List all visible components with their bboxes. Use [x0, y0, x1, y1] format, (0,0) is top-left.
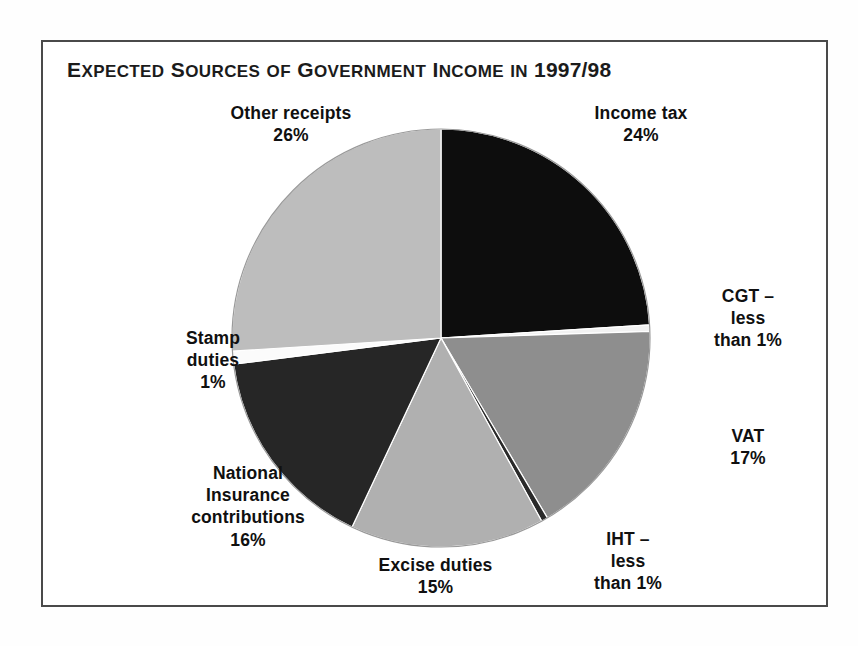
slice-label-national-insurance: National Insurance contributions 16% — [143, 462, 353, 551]
slice-label-cgt: CGT – less than 1% — [693, 285, 803, 352]
slice-label-iht: IHT – less than 1% — [568, 528, 688, 595]
slice-label-value: 26% — [193, 124, 389, 146]
slice-label-name: Stamp — [153, 327, 273, 349]
slice-label-name: CGT – — [693, 285, 803, 307]
slice-label-value: 24% — [543, 124, 739, 146]
slice-label-stamp-duties: Stamp duties 1% — [153, 327, 273, 394]
slice-label-value: 16% — [143, 529, 353, 551]
page-background: EXPECTED SOURCES OF GOVERNMENT INCOME IN… — [0, 0, 858, 646]
slice-label-excise-duties: Excise duties 15% — [348, 554, 523, 598]
slice-label-value: 1% — [153, 371, 273, 393]
slice-label-name: Income tax — [543, 102, 739, 124]
slice-label-value: less — [693, 307, 803, 329]
slice-label-name: duties — [153, 349, 273, 371]
slice-label-name: Excise duties — [348, 554, 523, 576]
pie-slice-other-receipts[interactable] — [232, 129, 441, 351]
slice-label-income-tax: Income tax 24% — [543, 102, 739, 146]
slice-label-name: Insurance — [143, 484, 353, 506]
slice-label-name: contributions — [143, 506, 353, 528]
slice-label-vat: VAT 17% — [693, 425, 803, 469]
slice-label-other-receipts: Other receipts 26% — [193, 102, 389, 146]
slice-label-value: 17% — [693, 447, 803, 469]
slice-label-value: less — [568, 550, 688, 572]
slice-label-name: VAT — [693, 425, 803, 447]
slice-label-name: National — [143, 462, 353, 484]
figure-frame: EXPECTED SOURCES OF GOVERNMENT INCOME IN… — [41, 40, 828, 607]
slice-label-name: Other receipts — [193, 102, 389, 124]
slice-label-value: than 1% — [693, 329, 803, 351]
pie-chart-area: Other receipts 26% Income tax 24% CGT – … — [43, 42, 826, 605]
slice-label-value: than 1% — [568, 572, 688, 594]
slice-label-value: 15% — [348, 576, 523, 598]
pie-slice-income-tax[interactable] — [441, 129, 650, 338]
slice-label-name: IHT – — [568, 528, 688, 550]
